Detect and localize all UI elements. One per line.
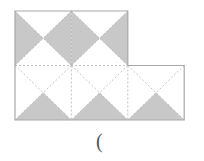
shaded-triangle-bottom — [128, 93, 184, 120]
shaded-triangle-left — [15, 11, 43, 66]
shaded-triangle-left — [71, 11, 99, 66]
shaded-triangle-right — [43, 11, 71, 66]
answer-bracket: ( — [96, 131, 103, 151]
shaded-triangle-right — [100, 11, 128, 66]
shaded-triangle-bottom — [15, 93, 71, 120]
shaded-triangle-bottom — [71, 93, 127, 120]
